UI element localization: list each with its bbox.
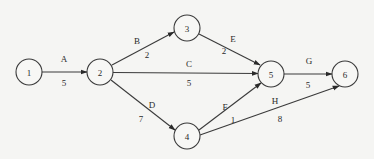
network-diagram: A 5 B 2 C 5 D 7 E 2 F <box>0 0 374 159</box>
node-3: 3 <box>174 15 200 41</box>
node-5: 5 <box>258 61 284 87</box>
edge-G: G 5 <box>284 56 332 90</box>
node-2: 2 <box>87 59 113 85</box>
edge-G-activity: G <box>306 56 313 66</box>
edge-A-activity: A <box>61 54 68 64</box>
node-3-label: 3 <box>185 24 190 34</box>
node-1-label: 1 <box>27 68 32 78</box>
edge-D: D 7 <box>111 80 175 130</box>
node-2-label: 2 <box>98 68 103 78</box>
edge-H-duration: 8 <box>278 114 283 124</box>
node-1: 1 <box>16 59 42 85</box>
edge-F: F 1 <box>199 83 261 130</box>
node-6-label: 6 <box>343 70 348 80</box>
edge-B: B 2 <box>112 32 174 65</box>
edge-E-duration: 2 <box>222 46 227 56</box>
edge-H: H 8 <box>200 86 339 135</box>
edge-H-arrow-icon <box>200 86 339 135</box>
node-5-label: 5 <box>269 70 274 80</box>
edge-C-duration: 5 <box>187 78 192 88</box>
edge-C: C 5 <box>113 59 258 88</box>
edge-A-duration: 5 <box>62 78 67 88</box>
edge-A: A 5 <box>42 54 87 88</box>
edge-G-duration: 5 <box>306 80 311 90</box>
edge-B-duration: 2 <box>145 50 150 60</box>
edge-H-activity: H <box>272 96 279 106</box>
node-4-label: 4 <box>185 132 190 142</box>
edge-B-activity: B <box>134 36 140 46</box>
edge-C-activity: C <box>186 59 192 69</box>
edge-C-arrow-icon <box>113 73 258 74</box>
node-6: 6 <box>332 61 358 87</box>
edge-F-activity: F <box>222 102 227 112</box>
network-diagram-svg: A 5 B 2 C 5 D 7 E 2 F <box>0 0 374 159</box>
edge-E-activity: E <box>230 34 236 44</box>
edge-D-duration: 7 <box>139 114 144 124</box>
edge-E: E 2 <box>199 34 260 65</box>
edge-D-activity: D <box>149 100 156 110</box>
node-4: 4 <box>174 123 200 149</box>
edge-B-arrow-icon <box>112 32 174 65</box>
